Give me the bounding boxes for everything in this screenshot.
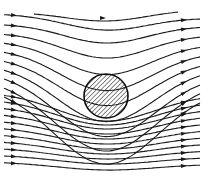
streamline (4, 43, 200, 74)
arrowhead-icon (10, 90, 16, 95)
arrowhead-icon (181, 132, 187, 136)
arrowhead-icon (180, 81, 186, 86)
arrowhead-icon (10, 80, 16, 84)
arrowhead-icon (181, 126, 187, 130)
arrowhead-icon (11, 161, 17, 165)
arrowhead-icon (11, 52, 17, 56)
arrowhead-icon (11, 33, 17, 37)
streamline (34, 12, 178, 21)
arrowhead-icon (181, 71, 187, 75)
arrowhead-icon (181, 164, 187, 168)
arrowhead-icon (100, 16, 106, 20)
arrowhead-icon (11, 114, 17, 118)
cylinder (84, 74, 128, 118)
arrowhead-icon (11, 71, 17, 75)
streamline (4, 25, 200, 43)
arrowhead-icon (181, 138, 187, 142)
streamline-diagram (0, 0, 212, 193)
arrowhead-icon (181, 60, 187, 64)
arrowhead-icon (11, 128, 17, 132)
arrowhead-icon (181, 107, 187, 111)
arrowhead-icon (11, 121, 17, 125)
arrowhead-icon (11, 61, 17, 65)
streamline (4, 136, 200, 149)
streamline (4, 156, 200, 164)
arrowhead-icon (181, 157, 187, 161)
arrowhead-icon (181, 50, 187, 54)
arrowhead-icon (11, 108, 17, 112)
arrowhead-icon (180, 91, 186, 96)
arrowhead-icon (181, 28, 187, 32)
